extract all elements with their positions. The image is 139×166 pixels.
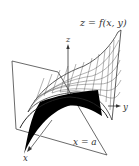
- z-axis-label: z: [65, 35, 71, 44]
- y-axis-label: y: [122, 102, 128, 112]
- surface-label: z = f(x, y): [79, 17, 127, 28]
- plane-label: x = a: [73, 137, 97, 147]
- y-axis-arrow-icon: [116, 104, 121, 107]
- surface-plane-diagram: z = f(x, y) z y x x = a: [0, 0, 139, 166]
- x-axis-label: x: [23, 153, 28, 163]
- z-axis-arrow-icon: [66, 44, 69, 49]
